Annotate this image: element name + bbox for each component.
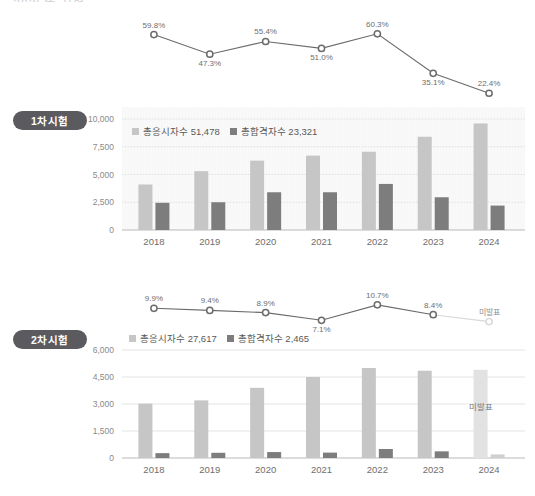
bar-total-passers bbox=[211, 453, 225, 458]
pass-rate-marker bbox=[486, 318, 492, 324]
legend-swatch-icon bbox=[132, 128, 139, 135]
pass-rate-label: 8.9% bbox=[257, 299, 275, 308]
pass-rate-marker bbox=[207, 51, 213, 57]
x-axis-tick-label: 2019 bbox=[199, 236, 220, 247]
bar-total-passers bbox=[435, 197, 449, 230]
pass-rate-marker bbox=[151, 31, 157, 37]
pass-rate-label: 10.7% bbox=[366, 291, 389, 300]
x-axis-tick-label: 2019 bbox=[199, 464, 220, 475]
pass-rate-marker bbox=[207, 307, 213, 313]
bar-chart-2-svg: 01,5003,0004,5006,0002018201920202021202… bbox=[0, 328, 535, 493]
x-axis-tick-label: 2024 bbox=[479, 464, 500, 475]
pass-rate-marker bbox=[263, 309, 269, 315]
bar-total-passers bbox=[491, 206, 505, 230]
pass-rate-label: 미발표 bbox=[479, 307, 500, 317]
x-axis-tick-label: 2023 bbox=[423, 236, 444, 247]
chart-page: · 2025年 시험 1차시험 59.8%47.3%55.4%51.0%60.3… bbox=[0, 0, 535, 496]
line-chart-1-svg: 59.8%47.3%55.4%51.0%60.3%35.1%22.4% bbox=[0, 0, 535, 110]
y-axis-tick-label: 0 bbox=[109, 453, 114, 463]
y-axis-tick-label: 7,500 bbox=[93, 142, 115, 152]
pass-rate-marker bbox=[430, 312, 436, 318]
x-axis-tick-label: 2018 bbox=[143, 236, 164, 247]
x-axis-tick-label: 2021 bbox=[311, 464, 332, 475]
pass-rate-label: 9.4% bbox=[201, 296, 219, 305]
pass-rate-marker bbox=[318, 317, 324, 323]
legend-label: 총응시자수 27,617 bbox=[140, 331, 217, 345]
legend-item: 총합격자수 23,321 bbox=[230, 124, 318, 138]
bar-total-passers bbox=[267, 192, 281, 230]
legend-1: 총응시자수 51,478총합격자수 23,321 bbox=[132, 124, 317, 138]
pass-rate-marker bbox=[486, 90, 492, 96]
x-axis-tick-label: 2023 bbox=[423, 464, 444, 475]
pass-rate-label: 55.4% bbox=[254, 27, 277, 36]
pass-rate-marker bbox=[430, 70, 436, 76]
y-axis-tick-label: 10,000 bbox=[88, 114, 114, 124]
bar-total-passers bbox=[155, 203, 169, 230]
bar-total-applicants bbox=[362, 368, 376, 458]
pass-rate-label: 60.3% bbox=[366, 20, 389, 29]
legend-label: 총응시자수 51,478 bbox=[143, 124, 220, 138]
bar-total-passers bbox=[211, 202, 225, 230]
x-axis-tick-label: 2024 bbox=[479, 236, 500, 247]
pass-rate-label: 51.0% bbox=[310, 53, 333, 62]
y-axis-tick-label: 3,000 bbox=[93, 399, 115, 409]
y-axis-tick-label: 1,500 bbox=[93, 426, 115, 436]
x-axis-tick-label: 2018 bbox=[143, 464, 164, 475]
x-axis-tick-label: 2020 bbox=[255, 236, 276, 247]
legend-label: 총합격자수 2,465 bbox=[238, 331, 309, 345]
pass-rate-marker bbox=[374, 31, 380, 37]
bar-total-applicants bbox=[474, 123, 488, 230]
pass-rate-label: 22.4% bbox=[478, 79, 501, 88]
y-axis-tick-label: 5,000 bbox=[93, 170, 115, 180]
legend-item: 총응시자수 51,478 bbox=[132, 124, 220, 138]
bar-total-passers bbox=[267, 452, 281, 458]
bar-total-applicants bbox=[306, 156, 320, 230]
bar-total-applicants bbox=[418, 137, 432, 230]
x-axis-tick-label: 2022 bbox=[367, 464, 388, 475]
legend-item: 총응시자수 27,617 bbox=[129, 331, 217, 345]
bar-total-passers bbox=[435, 451, 449, 458]
legend-swatch-icon bbox=[129, 335, 136, 342]
x-axis-tick-label: 2022 bbox=[367, 236, 388, 247]
bar-total-applicants bbox=[194, 400, 208, 458]
bar-chart-2: 01,5003,0004,5006,0002018201920202021202… bbox=[0, 328, 535, 493]
y-axis-tick-label: 2,500 bbox=[93, 197, 115, 207]
bar-total-applicants bbox=[250, 388, 264, 458]
legend-label: 총합격자수 23,321 bbox=[241, 124, 318, 138]
bar-total-passers bbox=[323, 192, 337, 230]
legend-2: 총응시자수 27,617총합격자수 2,465 bbox=[129, 331, 309, 345]
legend-swatch-icon bbox=[230, 128, 237, 135]
bar-total-applicants bbox=[138, 404, 152, 458]
bar-total-passers bbox=[155, 453, 169, 458]
x-axis-tick-label: 2020 bbox=[255, 464, 276, 475]
bar-total-passers bbox=[379, 184, 393, 230]
pass-rate-line bbox=[154, 305, 433, 320]
bar-total-applicants bbox=[194, 171, 208, 230]
y-axis-tick-label: 4,500 bbox=[93, 372, 115, 382]
bar-total-passers bbox=[379, 449, 393, 458]
bar-total-passers bbox=[323, 453, 337, 458]
bar-total-applicants bbox=[418, 371, 432, 458]
x-axis-tick-label: 2021 bbox=[311, 236, 332, 247]
pass-rate-label: 35.1% bbox=[422, 78, 445, 87]
bar-total-applicants bbox=[250, 161, 264, 230]
legend-item: 총합격자수 2,465 bbox=[227, 331, 309, 345]
legend-swatch-icon bbox=[227, 335, 234, 342]
pass-rate-label: 47.3% bbox=[198, 59, 221, 68]
pass-rate-label: 59.8% bbox=[143, 21, 166, 30]
pass-rate-marker bbox=[263, 38, 269, 44]
y-axis-tick-label: 6,000 bbox=[93, 345, 115, 355]
pass-rate-label: 9.9% bbox=[145, 294, 163, 303]
pass-rate-marker bbox=[318, 45, 324, 51]
bar-total-applicants bbox=[474, 370, 488, 458]
bar-total-applicants bbox=[362, 152, 376, 230]
pass-rate-marker bbox=[374, 302, 380, 308]
bar-total-applicants bbox=[138, 184, 152, 230]
bar-total-applicants bbox=[306, 377, 320, 458]
pass-rate-marker bbox=[151, 305, 157, 311]
pass-rate-line-chart-1: 59.8%47.3%55.4%51.0%60.3%35.1%22.4% bbox=[0, 0, 535, 110]
unpublished-note: 미발표 bbox=[469, 402, 493, 412]
bar-total-passers bbox=[491, 454, 505, 458]
y-axis-tick-label: 0 bbox=[109, 225, 114, 235]
pass-rate-label: 8.4% bbox=[424, 301, 442, 310]
